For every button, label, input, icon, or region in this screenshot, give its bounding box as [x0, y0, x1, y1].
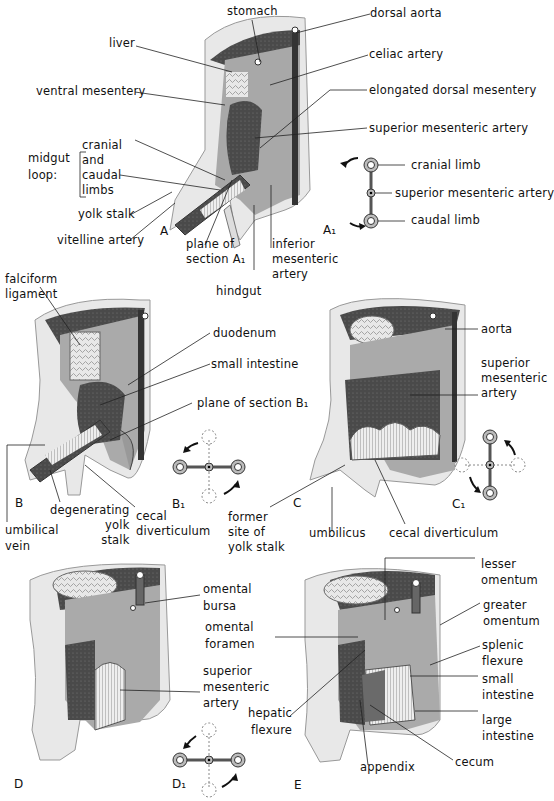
label-superior-mesenteric-artery-a1: superior mesenteric artery	[395, 186, 554, 200]
label-plane-of-section-b1: plane of section B₁	[197, 396, 309, 410]
label-degenerating-yolk-stalk: degenerating yolk stalk	[50, 503, 130, 548]
label-stomach: stomach	[227, 4, 278, 18]
label-ventral-mesentery: ventral mesentery	[36, 84, 145, 98]
label-omental-bursa: omental bursa	[203, 581, 252, 615]
label-vitelline-artery: vitelline artery	[57, 233, 144, 247]
panel-b-art	[25, 299, 150, 495]
label-inferior-mesenteric-artery: inferior mesenteric artery	[272, 237, 338, 282]
label-cecal-diverticulum-b: cecal diverticulum	[136, 509, 211, 539]
panel-a-art	[170, 16, 310, 248]
panel-letter-c1: C₁	[452, 497, 465, 511]
panel-letter-a: A	[160, 224, 168, 238]
label-superior-mesenteric-artery-c: superior mesenteric artery	[481, 356, 547, 401]
label-hepatic-flexure: hepatic flexure	[248, 705, 292, 739]
label-plane-of-section-a1: plane of section A₁	[186, 237, 246, 267]
label-small-intestine-b: small intestine	[211, 357, 298, 371]
panel-letter-a1: A₁	[323, 223, 336, 237]
panel-letter-c: C	[293, 496, 301, 510]
label-cranial-limb: cranial limb	[411, 158, 481, 172]
label-former-site-of-yolk-stalk: former site of yolk stalk	[228, 510, 285, 555]
panel-letter-b1: B₁	[172, 497, 185, 511]
label-caudal-limb: caudal limb	[411, 213, 480, 227]
label-aorta: aorta	[481, 322, 512, 336]
label-large-intestine: large intestine	[482, 712, 534, 744]
label-falciform-ligament: falciform ligament	[5, 272, 57, 302]
label-omental-foramen: omental foramen	[205, 619, 255, 653]
label-yolk-stalk: yolk stalk	[78, 207, 135, 221]
panel-letter-d1: D₁	[172, 777, 186, 791]
label-splenic-flexure: splenic flexure	[482, 637, 524, 669]
panel-c-art	[310, 299, 465, 497]
panel-letter-d: D	[14, 777, 23, 791]
label-superior-mesenteric-artery-a: superior mesenteric artery	[369, 121, 528, 135]
panel-d-art	[30, 564, 170, 760]
panel-letter-b: B	[15, 496, 23, 510]
label-cranial-and-caudal-limbs: cranial and caudal limbs	[82, 138, 122, 198]
section-c1-art	[455, 430, 525, 500]
label-small-intestine-e: small intestine	[482, 671, 534, 703]
label-duodenum: duodenum	[213, 326, 276, 340]
label-liver: liver	[109, 36, 135, 50]
label-celiac-artery: celiac artery	[369, 47, 443, 61]
label-cecum: cecum	[455, 755, 494, 769]
label-superior-mesenteric-artery-d: superior mesenteric artery	[203, 663, 269, 711]
label-hindgut: hindgut	[216, 284, 262, 298]
label-greater-omentum: greater omentum	[483, 597, 540, 629]
label-umbilicus: umbilicus	[309, 526, 366, 540]
label-midgut-loop: midgut loop:	[28, 150, 70, 184]
label-appendix: appendix	[360, 760, 415, 774]
label-elongated-dorsal-mesentery: elongated dorsal mesentery	[369, 83, 536, 97]
section-b1-art	[173, 430, 245, 503]
label-cecal-diverticulum-c: cecal diverticulum	[389, 526, 498, 540]
section-a1-art	[340, 158, 378, 230]
label-lesser-omentum: lesser omentum	[481, 556, 538, 588]
panel-e-art	[305, 569, 440, 762]
panel-letter-e: E	[294, 778, 302, 792]
label-dorsal-aorta: dorsal aorta	[370, 6, 442, 20]
